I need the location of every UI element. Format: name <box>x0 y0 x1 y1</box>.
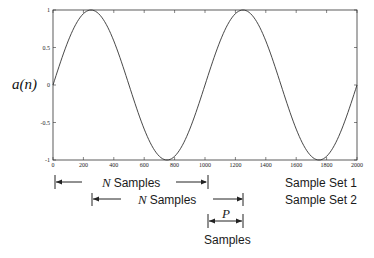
y-axis-label: a(n) <box>12 76 37 93</box>
x-tick-label: 0 <box>52 162 55 168</box>
x-tick-label: 600 <box>140 162 149 168</box>
x-tick-label: 1400 <box>260 162 272 168</box>
sample-set-1-label: Sample Set 1 <box>285 176 357 190</box>
x-axis-ticks: 0200400600800100012001400160018002000 <box>52 10 364 168</box>
sine-curve <box>53 10 357 160</box>
y-tick-label: -0.5 <box>41 120 51 126</box>
n-samples-label-2: NSamples <box>137 192 196 207</box>
x-tick-label: 1600 <box>290 162 302 168</box>
x-tick-label: 1200 <box>229 162 241 168</box>
y-axis-ticks: -1-0.500.51 <box>41 7 358 163</box>
sample-set-2-label: Sample Set 2 <box>285 193 357 207</box>
chart-svg: 0200400600800100012001400160018002000 -1… <box>0 0 374 258</box>
x-tick-label: 2000 <box>351 162 363 168</box>
p-variable-label: P <box>221 206 230 221</box>
y-tick-label: 1 <box>47 7 50 13</box>
y-tick-label: 0.5 <box>43 45 51 51</box>
y-tick-label: -1 <box>45 157 50 163</box>
x-tick-label: 400 <box>109 162 118 168</box>
x-tick-label: 200 <box>79 162 88 168</box>
n-samples-label-1: NSamples <box>101 175 160 190</box>
p-samples-label: Samples <box>204 233 251 247</box>
x-tick-label: 1000 <box>199 162 211 168</box>
y-tick-label: 0 <box>47 82 50 88</box>
x-tick-label: 800 <box>170 162 179 168</box>
x-tick-label: 1800 <box>321 162 333 168</box>
